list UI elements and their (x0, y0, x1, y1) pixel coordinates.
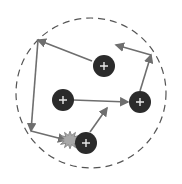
motion-arrow (90, 108, 107, 132)
charge-motion-diagram (0, 0, 182, 184)
motion-arrow (38, 40, 92, 61)
motion-paths (31, 40, 151, 140)
positive-charge-particle (93, 55, 115, 77)
positive-charge-particle (129, 91, 151, 113)
positive-charge-particle (75, 132, 97, 154)
motion-arrow (116, 45, 151, 55)
motion-arrow (73, 100, 128, 102)
positive-charge-particle (52, 89, 74, 111)
motion-arrow (140, 55, 151, 91)
diagram-canvas (0, 0, 182, 184)
motion-arrow (31, 40, 38, 131)
